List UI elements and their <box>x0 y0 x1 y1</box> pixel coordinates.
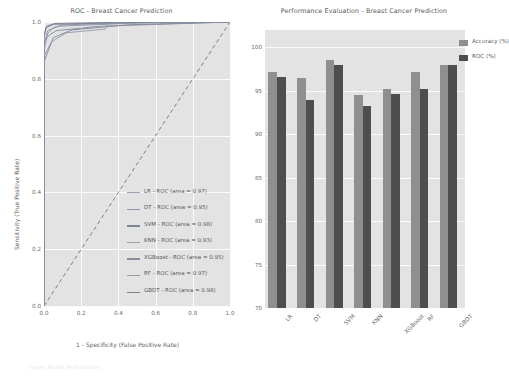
performance-chart-panel: Performance Evaluation - Breast Cancer P… <box>243 0 485 376</box>
y-tick-label: 0.2 <box>27 246 41 252</box>
bar-accuracy <box>383 89 392 308</box>
legend-label: XGBoost - ROC (area = 0.95) <box>144 254 224 260</box>
gridline-horizontal <box>265 308 465 309</box>
legend-swatch <box>459 55 468 61</box>
legend-label: LR - ROC (area = 0.97) <box>144 188 207 194</box>
x-tick-label: 0.8 <box>187 310 199 316</box>
bar-accuracy <box>297 78 306 308</box>
legend-label: GBDT - ROC (area = 0.98) <box>144 287 216 293</box>
legend-swatch <box>127 242 140 243</box>
legend-label: RF - ROC (area = 0.97) <box>144 270 207 276</box>
x-tick-label: LR <box>284 313 293 322</box>
y-tick-label: 90 <box>249 131 262 137</box>
legend-item: GBDT - ROC (area = 0.98) <box>127 285 233 302</box>
legend-swatch <box>127 192 140 193</box>
y-tick-label: 95 <box>249 88 262 94</box>
y-tick-label: 70 <box>249 305 262 311</box>
y-tick-label: 0.4 <box>27 189 41 195</box>
legend-swatch <box>127 209 140 210</box>
legend-label: KNN - ROC (area = 0.93) <box>144 237 212 243</box>
roc-y-axis-label: Sensitivity (True Positive Rate) <box>13 159 20 250</box>
bar-chart-title: Performance Evaluation - Breast Cancer P… <box>243 7 485 15</box>
legend-swatch <box>127 258 140 259</box>
legend-item: LR - ROC (area = 0.97) <box>127 185 233 202</box>
legend-label: Accuracy (%) <box>472 38 509 44</box>
x-tick-label: 0.0 <box>38 310 50 316</box>
x-tick-label: GBDT <box>458 313 474 329</box>
y-tick-label: 1.0 <box>27 19 41 25</box>
bar-roc <box>448 65 457 308</box>
bar-roc <box>363 106 372 308</box>
roc-x-axis-label: 1 - Specificity (False Positive Rate) <box>76 341 179 348</box>
roc-chart-title: ROC - Breast Cancer Prediction <box>0 7 243 15</box>
roc-chart-panel: ROC - Breast Cancer Prediction Sensitivi… <box>0 0 243 376</box>
roc-legend: LR - ROC (area = 0.97)DT - ROC (area = 0… <box>127 185 233 303</box>
legend-item: XGBoost - ROC (area = 0.95) <box>127 251 233 268</box>
x-tick-label: 1.0 <box>224 310 236 316</box>
bar-group-xgboost <box>379 30 408 308</box>
x-tick-label: SVM <box>342 313 355 326</box>
bar-accuracy <box>440 65 449 308</box>
bar-accuracy <box>411 72 420 308</box>
bar-accuracy <box>268 72 277 308</box>
bar-roc <box>420 89 429 308</box>
bar-roc <box>391 94 400 308</box>
y-tick-label: 0.0 <box>27 303 41 309</box>
bar-group-gbdt <box>436 30 465 308</box>
legend-swatch <box>127 292 140 293</box>
bar-roc <box>306 100 315 309</box>
bar-group-rf <box>408 30 437 308</box>
y-tick-label: 100 <box>249 44 262 50</box>
x-tick-label: 0.2 <box>75 310 87 316</box>
bar-roc <box>277 77 286 308</box>
x-tick-label: DT <box>312 313 322 323</box>
y-tick-label: 0.6 <box>27 133 41 139</box>
figure-caption: Figure: Model Performance <box>28 364 100 370</box>
y-tick-label: 80 <box>249 218 262 224</box>
bar-group-svm <box>322 30 351 308</box>
y-tick-label: 0.8 <box>27 76 41 82</box>
x-tick-label: KNN <box>371 313 384 326</box>
legend-label: DT - ROC (area = 0.95) <box>144 204 208 210</box>
legend-item: RF - ROC (area = 0.97) <box>127 268 233 285</box>
legend-item: SVM - ROC (area = 0.98) <box>127 218 233 235</box>
x-tick-label: 0.4 <box>112 310 124 316</box>
bar-group-lr <box>265 30 294 308</box>
legend-label: SVM - ROC (area = 0.98) <box>144 221 212 227</box>
bar-group-knn <box>351 30 380 308</box>
gridline-horizontal <box>44 306 230 307</box>
x-tick-label: XGBoost <box>403 313 425 335</box>
legend-label: ROC (%) <box>472 53 496 59</box>
x-tick-label: 0.6 <box>150 310 162 316</box>
y-tick-label: 85 <box>249 175 262 181</box>
legend-item: DT - ROC (area = 0.95) <box>127 202 233 219</box>
legend-swatch <box>127 225 140 226</box>
legend-swatch <box>459 40 468 46</box>
y-tick-label: 75 <box>249 262 262 268</box>
bar-accuracy <box>354 95 363 308</box>
x-tick-label: RF <box>427 313 436 322</box>
bar-accuracy <box>326 60 335 308</box>
legend-item: KNN - ROC (area = 0.93) <box>127 235 233 252</box>
bar-group-dt <box>294 30 323 308</box>
legend-swatch <box>127 275 140 276</box>
bar-roc <box>334 65 343 308</box>
bar-plot-area: Accuracy (%)ROC (%) <box>265 30 465 308</box>
